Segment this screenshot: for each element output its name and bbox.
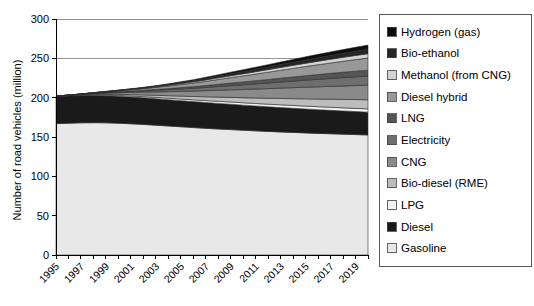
legend-swatch-bio-diesel-rme <box>387 179 396 188</box>
legend-label: Electricity <box>401 134 450 146</box>
y-tick-label: 200 <box>31 92 49 104</box>
legend-label: LPG <box>401 199 424 211</box>
y-tick-label: 0 <box>43 249 49 261</box>
legend-item[interactable]: CNG <box>387 156 427 168</box>
legend-swatch-gasoline <box>387 244 396 253</box>
legend-swatch-diesel <box>387 222 396 231</box>
legend-label: CNG <box>401 156 427 168</box>
legend-swatch-hydrogen-gas <box>387 27 396 36</box>
legend-swatch-lpg <box>387 200 396 209</box>
legend: Hydrogen (gas)Bio-ethanolMethanol (from … <box>379 14 531 266</box>
legend-label: Hydrogen (gas) <box>401 26 480 38</box>
chart-container: 050100150200250300 199519971999200120032… <box>0 0 534 306</box>
legend-item[interactable]: LNG <box>387 112 425 124</box>
y-axis-title: Number of road vehicles (million) <box>11 60 23 221</box>
y-tick-label: 150 <box>31 131 49 143</box>
legend-swatch-electricity <box>387 136 396 145</box>
legend-swatch-cng <box>387 157 396 166</box>
series-area-gasoline <box>56 123 368 255</box>
legend-item[interactable]: LPG <box>387 199 424 211</box>
legend-swatch-methanol-from-cng <box>387 71 396 80</box>
y-tick-label: 250 <box>31 52 49 64</box>
legend-item[interactable]: Bio-diesel (RME) <box>387 177 488 189</box>
legend-label: Gasoline <box>401 242 446 254</box>
legend-item[interactable]: Methanol (from CNG) <box>387 69 511 81</box>
y-tick-label: 300 <box>31 13 49 25</box>
y-tick-label: 50 <box>37 210 49 222</box>
legend-label: Methanol (from CNG) <box>401 69 511 81</box>
legend-swatch-bio-ethanol <box>387 49 396 58</box>
legend-label: Diesel <box>401 221 433 233</box>
legend-label: LNG <box>401 112 425 124</box>
legend-swatch-diesel-hybrid <box>387 92 396 101</box>
stacked-area-chart: 050100150200250300 199519971999200120032… <box>0 0 534 306</box>
legend-item[interactable]: Gasoline <box>387 242 446 254</box>
y-tick-label: 100 <box>31 170 49 182</box>
legend-label: Bio-diesel (RME) <box>401 177 488 189</box>
legend-swatch-lng <box>387 114 396 123</box>
legend-label: Diesel hybrid <box>401 91 467 103</box>
legend-item[interactable]: Hydrogen (gas) <box>387 26 480 38</box>
legend-item[interactable]: Diesel <box>387 221 433 233</box>
legend-label: Bio-ethanol <box>401 47 459 59</box>
